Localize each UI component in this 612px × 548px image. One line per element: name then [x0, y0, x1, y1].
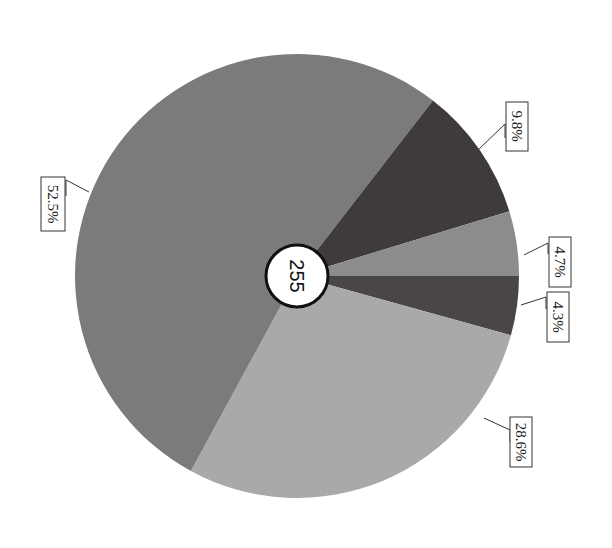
pie-chart: 255 52.5% 9.8% 4.7% 4.3% 28.6% — [0, 0, 612, 548]
center-total-label: 255 — [286, 259, 308, 292]
slice-label-28-6: 28.6% — [513, 423, 529, 462]
callout-28-6: 28.6% — [484, 417, 532, 467]
slice-label-52-5: 52.5% — [45, 185, 61, 224]
slice-label-4-7: 4.7% — [552, 246, 568, 277]
slice-label-4-3: 4.3% — [550, 301, 566, 332]
center-total-badge: 255 — [266, 245, 328, 307]
slice-label-9-8: 9.8% — [509, 110, 525, 141]
callout-4-3: 4.3% — [521, 292, 569, 342]
callout-4-7: 4.7% — [524, 237, 571, 287]
callout-9-8: 9.8% — [478, 102, 528, 151]
